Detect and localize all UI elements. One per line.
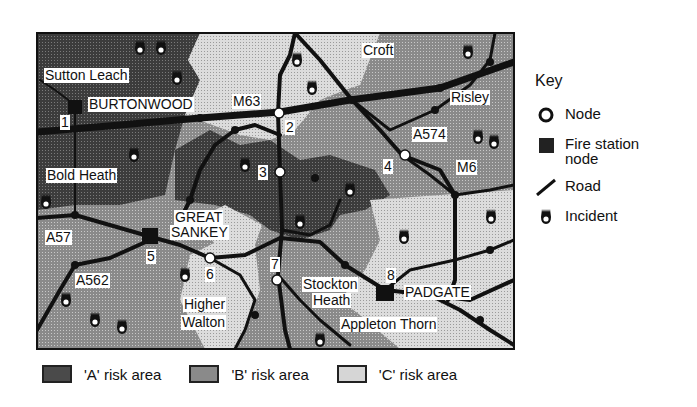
key-label: Fire station node [565,136,675,166]
risk-a-swatch [42,365,72,383]
place-label: M63 [232,94,261,109]
legend-item-c: 'C' risk area [337,365,457,383]
key-item-incident: Incident [535,208,695,226]
place-label: Stockton [302,277,358,292]
fire-station-node-5 [142,228,158,244]
node-6 [205,253,215,263]
road-icon [535,178,557,196]
node-4 [400,150,410,160]
key-label: Node [565,106,601,121]
place-label: A57 [45,230,72,245]
place-label: Bold Heath [46,168,117,183]
legend-label: 'B' risk area [231,366,308,383]
place-label: Sutton Leach [44,68,129,83]
key-label: Incident [565,208,618,223]
incident-icon [535,208,557,226]
risk-b-swatch [189,365,219,383]
place-label: Walton [181,315,226,330]
node-number-label: 2 [285,120,295,135]
place-label: GREAT [174,210,223,225]
place-label: Heath [312,293,351,308]
node-number-label: 4 [383,159,393,174]
legend-label: 'C' risk area [379,366,457,383]
node-number-label: 6 [205,267,215,282]
key-item-node: Node [535,106,695,124]
place-label: SANKEY [170,225,229,240]
map-key: Key Node Fire station node Road Incident [535,72,695,238]
fire-station-node-8 [376,285,394,301]
risk-c-swatch [337,365,367,383]
place-label: M6 [456,160,477,175]
place-label: A562 [75,273,110,288]
place-label: Croft [362,43,394,58]
node-number-label: 8 [386,268,396,283]
key-item-fire-station: Fire station node [535,136,695,166]
node-number-label: 3 [258,165,268,180]
node-3 [275,167,285,177]
fire-station-icon [535,136,557,154]
place-label: BURTONWOOD [88,97,194,112]
risk-legend: 'A' risk area 'B' risk area 'C' risk are… [42,365,485,383]
fire-station-node-1 [68,100,82,114]
place-label: Appleton Thorn [340,317,437,332]
key-title: Key [535,72,695,90]
place-label: Higher [183,297,226,312]
node-number-label: 5 [146,249,156,264]
legend-item-a: 'A' risk area [42,365,161,383]
node-number-label: 1 [60,115,70,130]
place-label: Risley [450,90,490,105]
key-item-road: Road [535,178,695,196]
node-number-label: 7 [270,257,280,272]
place-label: PADGATE [404,285,471,300]
legend-item-b: 'B' risk area [189,365,308,383]
legend-label: 'A' risk area [84,366,161,383]
key-label: Road [565,178,601,193]
node-7 [272,275,282,285]
place-label: A574 [412,127,447,142]
node-2 [274,108,284,118]
node-icon [535,106,557,124]
